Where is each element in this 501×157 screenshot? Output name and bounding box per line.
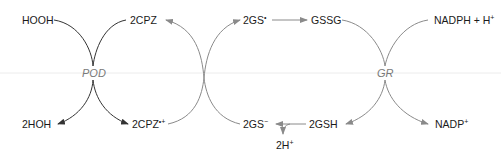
gr-enzyme-label: GR bbox=[377, 67, 394, 79]
glutathione-anion-label: 2GS− bbox=[243, 118, 268, 130]
proton-label: 2H+ bbox=[276, 139, 294, 151]
glutathione-radical-label: 2GS• bbox=[243, 14, 266, 26]
gssg-label: GSSG bbox=[311, 14, 341, 26]
pod-enzyme-label: POD bbox=[82, 67, 106, 79]
water-label: 2HOH bbox=[22, 118, 51, 130]
hooh-label: HOOH bbox=[22, 14, 54, 26]
nadp-label: NADP+ bbox=[435, 118, 468, 130]
gsh-label: 2GSH bbox=[309, 118, 338, 130]
reaction-diagram: HOOH 2CPZ 2GS• GSSG NADPH + H+ POD GR 2H… bbox=[0, 0, 501, 157]
cpz-reduced-label: 2CPZ bbox=[130, 14, 157, 26]
cpz-radical-cation-label: 2CPZ•+ bbox=[132, 118, 165, 130]
nadph-label: NADPH + H+ bbox=[434, 14, 494, 26]
